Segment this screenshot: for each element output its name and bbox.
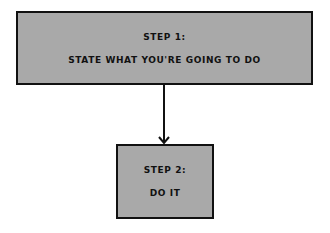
step-2-box: STEP 2: DO IT [116, 144, 214, 219]
step-2-title: STEP 2: [144, 166, 187, 175]
step-2-text: DO IT [150, 189, 181, 198]
